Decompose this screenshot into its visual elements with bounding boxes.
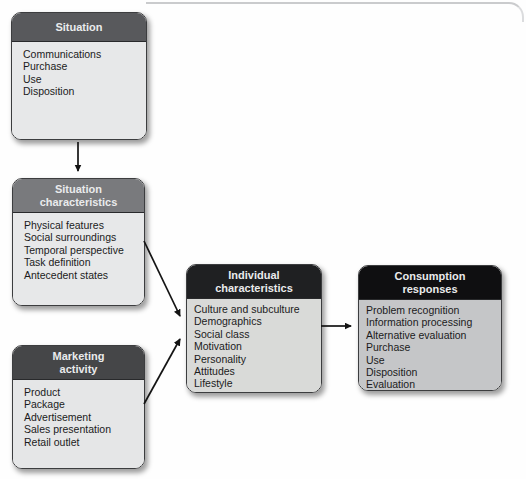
box-consumption-responses: Consumption responses Problem recognitio… [358,265,502,391]
box-situation-title: Situation [12,13,146,42]
flow-diagram: Situation Communications Purchase Use Di… [0,0,526,479]
list-item: Purchase [23,60,142,72]
box-situation-characteristics-items: Physical features Social surroundings Te… [13,213,144,305]
list-item: Communications [23,48,142,60]
box-marketing-activity-title: Marketing activity [13,346,144,380]
box-individual-characteristics-title: Individual characteristics [187,265,321,299]
box-situation-characteristics-title: Situation characteristics [13,179,144,213]
box-situation-characteristics: Situation characteristics Physical featu… [12,178,145,306]
list-item: Alternative evaluation [366,329,497,341]
list-item: Demographics [194,315,317,327]
list-item: Lifestyle [194,377,317,389]
arrow-situation-characteristics-to-individual-characteristics [144,241,180,316]
list-item: Personality [194,353,317,365]
page-frame-line [146,2,524,22]
list-item: Problem recognition [366,304,497,316]
box-individual-characteristics-items: Culture and subculture Demographics Soci… [187,299,321,393]
list-item: Culture and subculture [194,303,317,315]
list-item: Social class [194,328,317,340]
list-item: Advertisement [24,411,140,423]
list-item: Retail outlet [24,436,140,448]
list-item: Evaluation [366,378,497,390]
list-item: Disposition [366,366,497,378]
box-consumption-responses-items: Problem recognition Information processi… [359,300,501,391]
list-item: Motivation [194,340,317,352]
list-item: Package [24,398,140,410]
list-item: Information processing [366,316,497,328]
list-item: Use [23,73,142,85]
list-item: Use [366,354,497,366]
list-item: Disposition [23,85,142,97]
list-item: Temporal perspective [24,244,140,256]
box-marketing-activity-items: Product Package Advertisement Sales pres… [13,380,144,468]
list-item: Antecedent states [24,269,140,281]
list-item: Product [24,386,140,398]
list-item: Sales presentation [24,423,140,435]
list-item: Social surroundings [24,231,140,243]
box-situation: Situation Communications Purchase Use Di… [11,12,147,140]
box-consumption-responses-title: Consumption responses [359,266,501,300]
list-item: Task definition [24,256,140,268]
box-individual-characteristics: Individual characteristics Culture and s… [186,264,322,393]
list-item: Attitudes [194,365,317,377]
list-item: Purchase [366,341,497,353]
arrow-marketing-activity-to-individual-characteristics [144,339,180,404]
list-item: Physical features [24,219,140,231]
box-marketing-activity: Marketing activity Product Package Adver… [12,345,145,469]
box-situation-items: Communications Purchase Use Disposition [12,42,146,139]
